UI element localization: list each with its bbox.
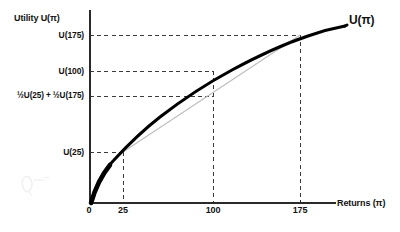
- scan-artifact: [22, 176, 49, 196]
- y-axis-title: Utility U(π): [14, 14, 60, 23]
- x-tick-label-175: 175: [293, 206, 308, 215]
- y-tick-label-u25: U(25): [0, 148, 84, 157]
- y-tick-label-u100: U(100): [0, 67, 84, 76]
- guide-lines: [90, 35, 300, 203]
- x-axis-title: Returns (π): [337, 199, 385, 208]
- curve-origin-ink: [91, 165, 110, 203]
- chord-line: [123, 35, 300, 152]
- x-tick-label-25: 25: [118, 206, 128, 215]
- utility-function-chart: Utility U(π) U(175) U(100) ½U(25) + ½U(1…: [0, 0, 400, 232]
- curve-label-leader: [345, 25, 347, 26]
- x-tick-label-0: 0: [87, 206, 92, 215]
- y-tick-label-mixture: ½U(25) + ½U(175): [0, 92, 84, 100]
- curve-label: U(π): [349, 14, 374, 26]
- utility-curve: [91, 26, 345, 203]
- y-tick-label-u175: U(175): [0, 31, 84, 40]
- x-tick-label-100: 100: [206, 206, 221, 215]
